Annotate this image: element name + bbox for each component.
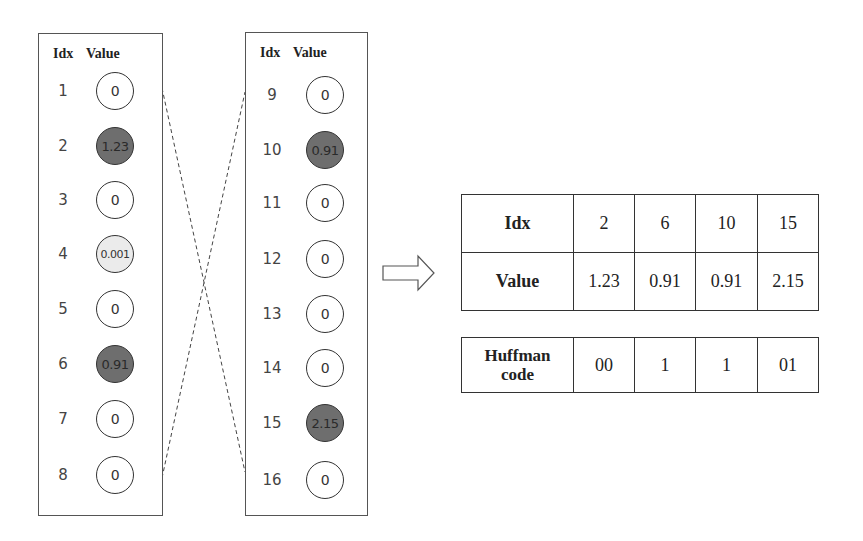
list-item: 60.91 — [39, 345, 162, 385]
list-item: 50 — [39, 290, 162, 330]
value-circle: 0 — [306, 240, 344, 278]
row-label: Huffmancode — [462, 338, 574, 393]
index-label: 8 — [48, 466, 78, 484]
list-item: 160 — [246, 461, 367, 501]
index-label: 11 — [257, 194, 287, 212]
index-label: 12 — [257, 250, 287, 268]
list-item: 70 — [39, 400, 162, 440]
value-header: Value — [293, 45, 327, 61]
value-circle: 0.001 — [96, 235, 134, 273]
index-label: 4 — [48, 245, 78, 263]
list-item: 130 — [246, 295, 367, 335]
table-cell: 0.91 — [635, 253, 696, 311]
index-label: 5 — [48, 300, 78, 318]
value-circle: 0 — [96, 400, 134, 438]
list-item: 40.001 — [39, 235, 162, 275]
dashed-connector-line — [162, 88, 245, 472]
row-label: Idx — [462, 195, 574, 253]
right-index-panel: Idx Value 90100.91110120130140152.15160 — [245, 32, 368, 516]
table-cell: 6 — [635, 195, 696, 253]
value-circle: 0.91 — [96, 345, 134, 383]
value-circle: 0 — [96, 72, 134, 110]
value-circle: 0 — [306, 184, 344, 222]
index-label: 1 — [48, 82, 78, 100]
table-cell: 1 — [635, 338, 696, 393]
dashed-connector-line — [162, 92, 245, 478]
index-label: 15 — [257, 414, 287, 432]
list-item: 80 — [39, 456, 162, 496]
value-circle: 1.23 — [96, 127, 134, 165]
value-circle: 0 — [306, 461, 344, 499]
index-label: 16 — [257, 471, 287, 489]
list-item: 21.23 — [39, 127, 162, 167]
value-circle: 0 — [306, 76, 344, 114]
value-circle: 0.91 — [306, 131, 344, 169]
value-header: Value — [86, 46, 120, 62]
huffman-code-table: Huffmancode 00 1 1 01 — [461, 337, 819, 393]
table-cell: 2 — [574, 195, 635, 253]
list-item: 30 — [39, 181, 162, 221]
table-cell: 15 — [758, 195, 819, 253]
huffman-label-line1: Huffman — [484, 346, 550, 365]
value-circle: 0 — [96, 456, 134, 494]
row-label: Value — [462, 253, 574, 311]
value-circle: 0 — [306, 349, 344, 387]
table-row: Idx 2 6 10 15 — [462, 195, 819, 253]
index-label: 13 — [257, 305, 287, 323]
table-cell: 01 — [758, 338, 819, 393]
table-cell: 00 — [574, 338, 635, 393]
table-cell: 1 — [696, 338, 758, 393]
idx-header: Idx — [53, 46, 73, 62]
table-cell: 2.15 — [758, 253, 819, 311]
table-cell: 10 — [696, 195, 758, 253]
idx-header: Idx — [260, 45, 280, 61]
index-label: 9 — [257, 86, 287, 104]
value-circle: 0 — [96, 181, 134, 219]
list-item: 90 — [246, 76, 367, 116]
list-item: 120 — [246, 240, 367, 280]
value-circle: 0 — [96, 290, 134, 328]
list-item: 10 — [39, 72, 162, 112]
index-label: 14 — [257, 359, 287, 377]
table-row: Value 1.23 0.91 0.91 2.15 — [462, 253, 819, 311]
index-label: 2 — [48, 137, 78, 155]
list-item: 100.91 — [246, 131, 367, 171]
huffman-label-line2: code — [501, 365, 534, 384]
index-label: 6 — [48, 355, 78, 373]
value-circle: 0 — [306, 295, 344, 333]
value-circle: 2.15 — [306, 404, 344, 442]
list-item: 110 — [246, 184, 367, 224]
index-label: 7 — [48, 410, 78, 428]
table-cell: 1.23 — [574, 253, 635, 311]
table-cell: 0.91 — [696, 253, 758, 311]
table-row: Huffmancode 00 1 1 01 — [462, 338, 819, 393]
list-item: 140 — [246, 349, 367, 389]
list-item: 152.15 — [246, 404, 367, 444]
index-label: 3 — [48, 191, 78, 209]
right-arrow-icon — [383, 256, 434, 290]
left-index-panel: Idx Value 1021.233040.0015060.917080 — [38, 33, 163, 516]
sparse-values-table: Idx 2 6 10 15 Value 1.23 0.91 0.91 2.15 — [461, 194, 819, 311]
index-label: 10 — [257, 141, 287, 159]
